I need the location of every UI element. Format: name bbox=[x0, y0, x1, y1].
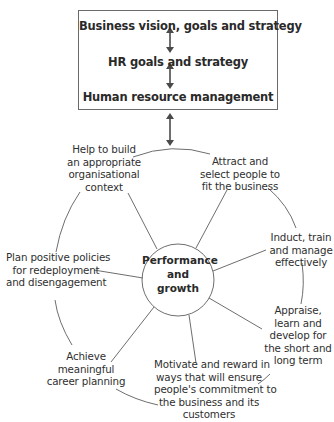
activity-line: customers bbox=[154, 408, 264, 421]
activity-line: and manage bbox=[268, 244, 334, 257]
activity-line: an appropriate bbox=[66, 156, 142, 169]
activity-appraise-develop: Appraise, learn and develop for the shor… bbox=[262, 304, 334, 367]
activity-line: fit the business bbox=[198, 180, 282, 193]
box-line-hrm: Human resource management bbox=[79, 90, 277, 104]
activity-redeployment: Plan positive policies for redeployment … bbox=[6, 251, 106, 289]
activity-line: and disengagement bbox=[6, 276, 106, 289]
activity-attract-select: Attract and select people to fit the bus… bbox=[198, 155, 282, 193]
center-line: and bbox=[142, 267, 214, 281]
activity-line: select people to bbox=[198, 168, 282, 181]
box-line-hr-goals: HR goals and strategy bbox=[79, 55, 277, 69]
activity-line: the short and bbox=[262, 342, 334, 355]
activity-line: context bbox=[66, 181, 142, 194]
spoke-attract-select bbox=[196, 190, 227, 248]
activity-induct-train: Induct, train and manage effectively bbox=[268, 231, 334, 269]
cycle-arc-bottom bbox=[116, 389, 158, 405]
strategy-box: Business vision, goals and strategy HR g… bbox=[78, 10, 278, 110]
activity-line: Plan positive policies bbox=[6, 251, 106, 264]
activity-line: Motivate and reward in bbox=[154, 358, 264, 371]
spoke-appraise-develop bbox=[209, 298, 262, 329]
spoke-induct-train bbox=[213, 250, 266, 271]
cycle-arc-upper-left bbox=[56, 192, 80, 252]
activity-line: meaningful bbox=[46, 363, 126, 376]
activity-organisational-context: Help to build an appropriate organisatio… bbox=[66, 143, 142, 193]
activity-line: career planning bbox=[46, 375, 126, 388]
activity-line: Help to build bbox=[66, 143, 142, 156]
activity-career-planning: Achieve meaningful career planning bbox=[46, 350, 126, 388]
cycle-arc-lower-left bbox=[55, 300, 72, 345]
activity-line: for redeployment bbox=[6, 264, 106, 277]
cycle-arc-right bbox=[301, 263, 303, 304]
activity-line: people's commitment to bbox=[154, 383, 264, 396]
center-line: growth bbox=[142, 281, 214, 295]
activity-line: the business and its bbox=[154, 396, 264, 409]
center-label: Performance and growth bbox=[142, 253, 214, 295]
activity-line: organisational bbox=[66, 168, 142, 181]
activity-motivate-reward: Motivate and reward in ways that will en… bbox=[154, 358, 264, 421]
activity-line: Achieve bbox=[46, 350, 126, 363]
activity-line: Induct, train bbox=[268, 231, 334, 244]
activity-line: ways that will ensure bbox=[154, 371, 264, 384]
activity-line: Appraise, bbox=[262, 304, 334, 317]
box-line-business-vision: Business vision, goals and strategy bbox=[79, 19, 277, 33]
spoke-motivate-reward bbox=[189, 315, 196, 363]
center-line: Performance bbox=[142, 253, 214, 267]
activity-line: effectively bbox=[268, 256, 334, 269]
activity-line: long term bbox=[262, 354, 334, 367]
activity-line: develop for bbox=[262, 329, 334, 342]
cycle-arc-upper-right bbox=[268, 188, 296, 228]
spoke-organisational-context bbox=[128, 193, 157, 249]
activity-line: Attract and bbox=[198, 155, 282, 168]
activity-line: learn and bbox=[262, 317, 334, 330]
